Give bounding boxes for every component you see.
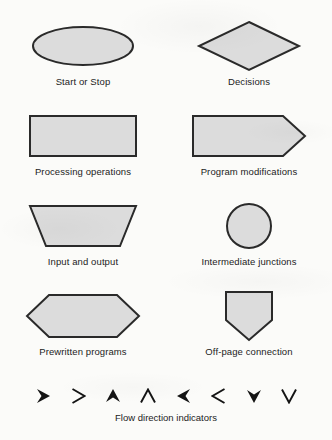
symbol-label-processing-operations: Processing operations: [0, 166, 166, 177]
shape-ellipse: [0, 20, 166, 72]
symbol-input-and-output: Input and output: [0, 194, 166, 284]
symbol-prewritten-programs: Prewritten programs: [0, 284, 166, 374]
symbol-label-start-or-stop: Start or Stop: [0, 76, 166, 87]
symbol-row-2: Processing operations Program modificati…: [0, 104, 332, 194]
symbol-row-3: Input and output Intermediate junctions: [0, 194, 332, 284]
symbol-intermediate-junctions: Intermediate junctions: [166, 194, 332, 284]
symbol-processing-operations: Processing operations: [0, 104, 166, 194]
arrow-up-outline-icon: [137, 383, 159, 409]
symbol-label-program-modifications: Program modifications: [166, 166, 332, 177]
shape-pentagon-down-point: [166, 290, 332, 342]
shape-pentagon-right-point: [166, 110, 332, 162]
arrow-right-filled-icon: [32, 383, 54, 409]
arrow-right-outline-icon: [67, 383, 89, 409]
symbol-off-page-connection: Off-page connection: [166, 284, 332, 374]
symbol-label-intermediate-junctions: Intermediate junctions: [166, 256, 332, 267]
arrow-down-filled-icon: [243, 383, 265, 409]
shape-diamond: [166, 20, 332, 72]
symbol-row-1: Start or Stop Decisions: [0, 14, 332, 104]
shape-trapezoid: [0, 200, 166, 252]
symbol-label-prewritten-programs: Prewritten programs: [0, 346, 166, 357]
flow-direction-indicators: Flow direction indicators: [0, 382, 332, 440]
symbol-label-decisions: Decisions: [166, 76, 332, 87]
flowchart-symbol-legend: Start or Stop Decisions Processing opera…: [0, 0, 332, 440]
symbol-label-input-and-output: Input and output: [0, 256, 166, 267]
flow-arrow-track: [32, 382, 300, 410]
shape-hexagon: [0, 290, 166, 342]
arrow-left-outline-icon: [208, 383, 230, 409]
symbol-decisions: Decisions: [166, 14, 332, 104]
symbol-label-off-page-connection: Off-page connection: [166, 346, 332, 357]
flow-direction-indicators-caption: Flow direction indicators: [0, 412, 332, 423]
arrow-up-filled-icon: [102, 383, 124, 409]
shape-rectangle: [0, 110, 166, 162]
symbol-start-or-stop: Start or Stop: [0, 14, 166, 104]
symbol-row-4: Prewritten programs Off-page connection: [0, 284, 332, 374]
arrow-left-filled-icon: [173, 383, 195, 409]
arrow-down-outline-icon: [278, 383, 300, 409]
symbol-program-modifications: Program modifications: [166, 104, 332, 194]
shape-circle: [166, 200, 332, 252]
